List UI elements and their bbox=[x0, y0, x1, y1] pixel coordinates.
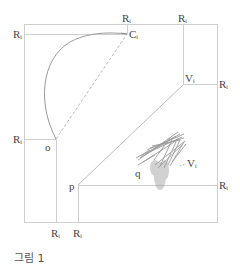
label-p: p bbox=[69, 181, 75, 192]
label-text: V bbox=[187, 157, 195, 169]
figure-caption: 그림 1 bbox=[14, 249, 45, 265]
label-r-top-left: Ri bbox=[13, 29, 22, 40]
label-sub: i bbox=[226, 185, 228, 191]
o-c1-chord bbox=[56, 34, 127, 139]
label-sub: i bbox=[129, 18, 131, 24]
label-sub: i bbox=[80, 233, 82, 239]
label-sub: i bbox=[20, 34, 22, 40]
label-sub: i bbox=[136, 34, 138, 40]
label-sub: i bbox=[195, 163, 197, 169]
label-text: p bbox=[69, 180, 75, 192]
label-r-right-lower: Ri bbox=[219, 180, 228, 191]
figure-diagram bbox=[0, 0, 240, 275]
label-sub: i bbox=[185, 18, 187, 24]
label-o: o bbox=[45, 142, 51, 153]
label-r-right-upper: Ri bbox=[219, 79, 228, 90]
label-v1-upper: Vi bbox=[185, 73, 195, 84]
label-r-bottom-o: Ri bbox=[51, 228, 60, 239]
label-sub: i bbox=[20, 139, 22, 145]
label-c1: Ci bbox=[129, 29, 138, 40]
label-text: q bbox=[135, 167, 141, 179]
label-text: o bbox=[45, 141, 51, 153]
label-r-top-c1: Ri bbox=[122, 13, 131, 24]
label-sub: i bbox=[193, 78, 195, 84]
o-c1-arc bbox=[44, 33, 127, 139]
label-v1-lower: Vi bbox=[187, 158, 197, 169]
label-r-top-right: Ri bbox=[178, 13, 187, 24]
v1-lower-leader bbox=[180, 164, 186, 166]
label-q: q bbox=[135, 168, 141, 179]
label-text: V bbox=[185, 72, 193, 84]
label-sub: i bbox=[58, 233, 60, 239]
label-sub: i bbox=[226, 84, 228, 90]
label-r-left-mid: Ri bbox=[13, 134, 22, 145]
label-r-bottom-p: Ri bbox=[73, 228, 82, 239]
outer-frame bbox=[25, 25, 218, 223]
